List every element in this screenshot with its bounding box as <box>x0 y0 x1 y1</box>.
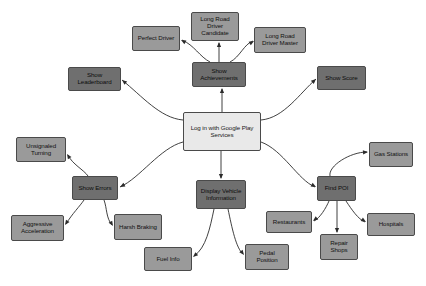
arrowhead-poi-to-restaurants <box>312 216 319 222</box>
edge-login-to-poi <box>261 142 315 187</box>
node-poi[interactable]: Find POI <box>317 176 356 201</box>
edge-vehicle-to-fuel <box>194 209 214 256</box>
edge-errors-to-harsh <box>104 200 112 225</box>
node-vehicle[interactable]: Display Vehicle Information <box>196 180 246 209</box>
edge-login-to-leaderboard <box>122 80 183 120</box>
edge-errors-to-aggressive <box>66 200 84 224</box>
node-label-perfect: Perfect Driver <box>135 35 177 42</box>
node-master[interactable]: Long Road Driver Master <box>254 27 306 53</box>
arrowhead-login-to-vehicle <box>219 174 223 179</box>
node-label-candidate: Long Road Driver Candidate <box>194 16 236 37</box>
node-errors[interactable]: Show Errors <box>72 176 118 200</box>
arrowhead-errors-to-unsignaled <box>65 153 71 159</box>
node-harsh[interactable]: Harsh Braking <box>114 214 162 240</box>
arrowhead-login-to-errors <box>119 183 125 189</box>
node-unsignaled[interactable]: Unsignaled Turning <box>16 137 66 162</box>
node-label-login: Log in with Google Play Services <box>186 125 258 139</box>
edge-poi-to-restaurants <box>314 201 329 221</box>
edge-poi-to-gas <box>330 152 367 176</box>
node-label-fuel: Fuel Info <box>147 256 189 263</box>
node-label-unsignaled: Unsignaled Turning <box>19 143 63 157</box>
edge-achievements-to-perfect <box>182 40 210 62</box>
node-fuel[interactable]: Fuel Info <box>144 247 192 271</box>
node-label-aggressive: Aggressive Acceleration <box>14 221 61 235</box>
node-candidate[interactable]: Long Road Driver Candidate <box>191 12 239 41</box>
node-hospitals[interactable]: Hospitals <box>367 213 415 236</box>
edge-login-to-errors <box>120 142 183 187</box>
node-label-achievements: Show Achievements <box>195 68 243 82</box>
diagram-canvas: Log in with Google Play ServicesShow Ach… <box>0 0 426 286</box>
node-label-restaurants: Restaurants <box>269 219 309 226</box>
arrowhead-achievements-to-perfect <box>180 38 186 44</box>
edge-errors-to-unsignaled <box>68 155 88 176</box>
edge-login-to-score <box>261 79 316 120</box>
node-pedal[interactable]: Pedal Position <box>245 244 289 270</box>
arrowhead-poi-to-repair <box>335 228 339 233</box>
node-achievements[interactable]: Show Achievements <box>192 62 246 87</box>
arrowhead-errors-to-aggressive <box>63 220 69 226</box>
node-label-errors: Show Errors <box>75 185 115 192</box>
node-label-leaderboard: Show Leaderboard <box>71 72 118 86</box>
node-label-gas: Gas Stations <box>372 151 410 158</box>
node-aggressive[interactable]: Aggressive Acceleration <box>11 215 64 241</box>
node-label-harsh: Harsh Braking <box>117 224 159 231</box>
node-label-pedal: Pedal Position <box>248 250 286 264</box>
node-score[interactable]: Show Score <box>317 66 366 90</box>
node-label-poi: Find POI <box>320 185 353 192</box>
node-gas[interactable]: Gas Stations <box>369 142 413 167</box>
node-login[interactable]: Log in with Google Play Services <box>183 112 261 151</box>
arrowhead-login-to-leaderboard <box>121 78 128 84</box>
arrowhead-login-to-achievements <box>220 88 224 93</box>
edge-poi-to-hospitals <box>346 201 365 222</box>
node-label-vehicle: Display Vehicle Information <box>199 188 243 202</box>
arrowhead-achievements-to-candidate <box>217 42 221 47</box>
node-repair[interactable]: Repair Shops <box>320 234 358 260</box>
node-label-score: Show Score <box>320 75 363 82</box>
node-restaurants[interactable]: Restaurants <box>266 211 312 233</box>
node-label-hospitals: Hospitals <box>370 221 412 228</box>
arrowhead-poi-to-gas <box>363 150 368 155</box>
edge-vehicle-to-pedal <box>228 209 243 254</box>
node-label-repair: Repair Shops <box>323 240 355 254</box>
arrowhead-vehicle-to-fuel <box>192 252 199 258</box>
node-perfect[interactable]: Perfect Driver <box>132 26 180 51</box>
edge-achievements-to-master <box>230 41 253 62</box>
node-label-master: Long Road Driver Master <box>257 33 303 47</box>
node-leaderboard[interactable]: Show Leaderboard <box>68 67 121 91</box>
